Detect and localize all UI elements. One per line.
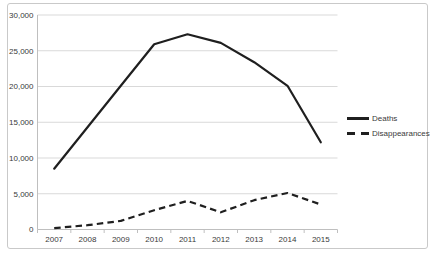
- y-axis-tick-label: 5,000: [13, 190, 34, 199]
- deaths-line: [54, 34, 321, 168]
- y-axis-tick-label: 20,000: [9, 82, 34, 91]
- x-axis-tick-label: 2014: [279, 235, 297, 244]
- legend: Deaths Disappearances: [347, 113, 430, 139]
- y-axis-tick-label: 15,000: [9, 118, 34, 127]
- y-axis-tick-label: 30,000: [9, 11, 34, 20]
- x-axis-tick-label: 2007: [45, 235, 63, 244]
- x-axis-tick-label: 2010: [145, 235, 163, 244]
- x-axis-tick-label: 2015: [312, 235, 330, 244]
- legend-label-disappearances: Disappearances: [372, 129, 430, 138]
- x-axis-tick-label: 2012: [212, 235, 230, 244]
- solid-line-marker-icon: [347, 117, 369, 119]
- x-axis-tick-label: 2008: [79, 235, 97, 244]
- x-axis-tick-label: 2011: [179, 235, 197, 244]
- legend-item-disappearances: Disappearances: [347, 128, 430, 139]
- chart-figure: 05,00010,00015,00020,00025,00030,0002007…: [0, 0, 436, 260]
- y-axis-tick-label: 25,000: [9, 47, 34, 56]
- x-axis-tick-label: 2009: [112, 235, 130, 244]
- disappearances-line: [54, 193, 321, 228]
- dashed-line-marker-icon: [347, 132, 369, 135]
- legend-label-deaths: Deaths: [372, 114, 397, 123]
- y-axis-tick-label: 10,000: [9, 154, 34, 163]
- legend-item-deaths: Deaths: [347, 113, 430, 124]
- y-axis-tick-label: 0: [29, 225, 34, 234]
- x-axis-tick-label: 2013: [245, 235, 263, 244]
